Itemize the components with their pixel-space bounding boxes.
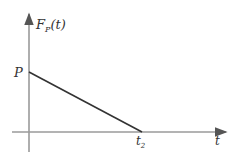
x-tick-label-t2: t2 — [136, 134, 146, 150]
y-tick-label-p: P — [13, 65, 23, 80]
x-axis-label: t — [215, 134, 220, 148]
force-time-diagram: FP(t) P t2 t — [0, 0, 238, 168]
y-axis-label: FP(t) — [35, 17, 66, 34]
force-line — [29, 72, 142, 132]
